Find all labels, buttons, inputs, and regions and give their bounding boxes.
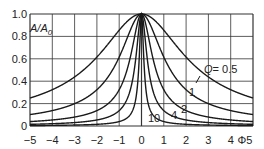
- x-tick-label: 4: [228, 134, 234, 146]
- x-tick-label: 2: [183, 134, 189, 146]
- x-tick-label: 1: [161, 134, 167, 146]
- x-tick-label: 3: [205, 134, 211, 146]
- y-tick-label: 0.6: [12, 53, 27, 65]
- curve-label-10: 10: [148, 112, 160, 124]
- x-tick-label: −5: [24, 134, 37, 146]
- x-tick-label: −1: [113, 134, 126, 146]
- x-tick-label: −4: [46, 134, 59, 146]
- curve-label-2: 2: [181, 103, 187, 115]
- curve-label-1: 1: [189, 86, 195, 98]
- x-tick-label: −3: [68, 134, 81, 146]
- y-tick-label: 0.8: [12, 30, 27, 42]
- resonance-chart: −5−4−3−2−101234Φ500.20.40.60.81.0 A/A0 Q…: [0, 0, 264, 149]
- y-axis-label: A/A0: [29, 22, 53, 37]
- x-tick-label: Φ5: [238, 134, 253, 146]
- curve-label-4: 4: [171, 109, 177, 121]
- y-tick-label: 1.0: [12, 8, 27, 20]
- x-tick-label: 0: [138, 134, 144, 146]
- y-tick-label: 0.2: [12, 98, 27, 110]
- y-tick-label: 0: [21, 120, 27, 132]
- curve-label-q05: Q= 0.5: [204, 63, 237, 75]
- x-tick-label: −2: [91, 134, 104, 146]
- y-tick-label: 0.4: [12, 75, 27, 87]
- label-leader: [196, 76, 200, 83]
